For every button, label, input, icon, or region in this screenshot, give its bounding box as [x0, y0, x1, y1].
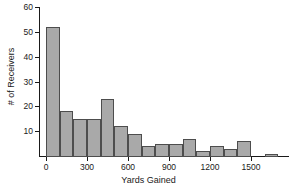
histogram-bar — [196, 151, 210, 157]
histogram-bar — [210, 146, 224, 157]
y-tick-40 — [35, 57, 39, 58]
y-axis-title: # of Receivers — [7, 22, 16, 132]
y-tick-60 — [35, 7, 39, 8]
y-tick-label-10: 10 — [24, 127, 33, 136]
y-tick-20 — [35, 106, 39, 107]
histogram-bar — [224, 149, 238, 157]
histogram-chart: 102030405060 030060090012001500 # of Rec… — [0, 0, 297, 192]
y-tick-label-50: 50 — [24, 28, 33, 37]
x-tick-1200 — [210, 157, 211, 161]
x-tick-label-600: 600 — [121, 163, 135, 172]
x-tick-0 — [46, 157, 47, 161]
histogram-bar — [183, 139, 197, 157]
histogram-bar — [155, 144, 169, 157]
histogram-bar — [73, 119, 87, 157]
y-tick-label-20: 20 — [24, 102, 33, 111]
histogram-bar — [60, 111, 74, 157]
y-axis-line — [39, 7, 40, 157]
x-tick-600 — [128, 157, 129, 161]
x-axis-title: Yards Gained — [0, 176, 297, 185]
y-tick-label-30: 30 — [24, 78, 33, 87]
x-tick-300 — [87, 157, 88, 161]
histogram-bar — [101, 99, 115, 157]
x-tick-label-1500: 1500 — [242, 163, 261, 172]
y-tick-10 — [35, 131, 39, 132]
plot-area: 102030405060 030060090012001500 # of Rec… — [0, 0, 297, 192]
histogram-bar — [128, 134, 142, 157]
histogram-bar — [237, 141, 251, 157]
histogram-bar — [114, 126, 128, 157]
histogram-bar — [142, 146, 156, 157]
y-tick-label-60: 60 — [24, 3, 33, 12]
x-tick-900 — [169, 157, 170, 161]
x-tick-label-0: 0 — [44, 163, 49, 172]
histogram-bar — [169, 144, 183, 157]
x-tick-label-300: 300 — [80, 163, 94, 172]
x-tick-label-1200: 1200 — [201, 163, 220, 172]
y-tick-30 — [35, 82, 39, 83]
histogram-bar — [87, 119, 101, 157]
y-tick-50 — [35, 32, 39, 33]
x-tick-1500 — [251, 157, 252, 161]
x-tick-label-900: 900 — [162, 163, 176, 172]
y-tick-label-40: 40 — [24, 53, 33, 62]
histogram-bar — [46, 27, 60, 157]
histogram-bar — [265, 154, 279, 157]
